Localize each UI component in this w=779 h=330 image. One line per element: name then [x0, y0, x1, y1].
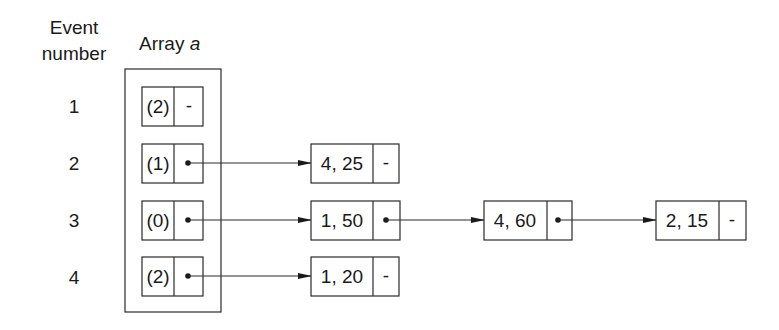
null-pointer: -: [186, 95, 192, 116]
event-number-1: 1: [69, 96, 80, 117]
node-value: 4, 25: [321, 153, 363, 174]
node-value: 4, 60: [494, 210, 536, 231]
node-value: 2, 15: [666, 210, 708, 231]
header-event: Event: [50, 17, 99, 38]
array-count: (0): [146, 210, 169, 231]
null-pointer: -: [383, 152, 389, 173]
array-count: (1): [146, 153, 169, 174]
event-number-4: 4: [69, 267, 80, 288]
null-pointer: -: [729, 209, 735, 230]
null-pointer: -: [383, 265, 389, 286]
array-cell-1: (2) -: [142, 87, 203, 126]
event-number-2: 2: [69, 153, 80, 174]
list-node-2-15: 2, 15 -: [656, 201, 746, 240]
array-variable: a: [190, 33, 201, 54]
node-value: 1, 50: [321, 210, 363, 231]
header-array: Array a: [139, 33, 200, 54]
header-number: number: [42, 43, 107, 64]
array-count: (2): [146, 96, 169, 117]
node-value: 1, 20: [321, 266, 363, 287]
list-node-4-25: 4, 25 -: [311, 144, 399, 183]
list-node-1-20: 1, 20 -: [311, 257, 399, 296]
array-count: (2): [146, 266, 169, 287]
event-number-3: 3: [69, 210, 80, 231]
linked-list-diagram: Event number Array a 1 2 3 4 (2) - (1) (…: [0, 0, 779, 330]
